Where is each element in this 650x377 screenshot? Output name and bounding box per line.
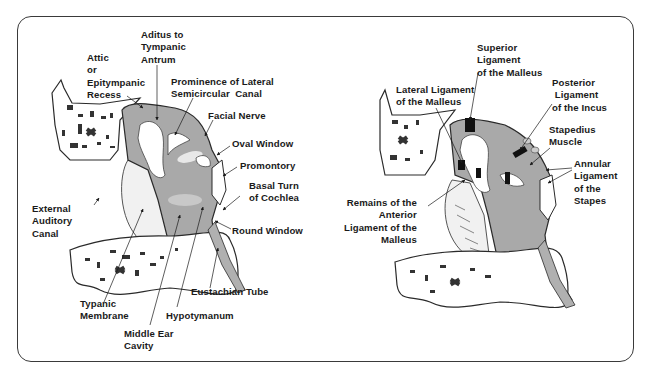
label-posterior-ligament-incus: Posterior Ligament of the Incus bbox=[552, 77, 607, 114]
label-tympanic-membrane: Typanic Membrane bbox=[80, 298, 129, 323]
label-basal-turn-of-cochlea: Basal Turn of Cochlea bbox=[249, 180, 299, 205]
promontory-bone bbox=[212, 160, 226, 205]
label-anterior-ligament-malleus: Remains of the Anterior Ligament of the … bbox=[344, 197, 417, 246]
label-hypotympanum: Hypotymanum bbox=[166, 310, 234, 322]
label-external-auditory-canal: External Auditory Canal bbox=[32, 203, 72, 240]
label-attic-epitympanic-recess: Attic or Epitympanic Recess bbox=[87, 52, 145, 101]
label-promontory: Promontory bbox=[240, 160, 295, 172]
label-aditus-to-tympanic-antrum: Aditus to Tympanic Antrum bbox=[141, 29, 186, 66]
label-stapedius-muscle: Stapedius Muscle bbox=[549, 124, 596, 149]
label-middle-ear-cavity: Middle Ear Cavity bbox=[124, 328, 174, 353]
label-eustachian-tube: Eustachian Tube bbox=[191, 286, 269, 298]
label-superior-ligament-malleus: Superior Ligament of the Malleus bbox=[477, 42, 542, 79]
promontory-bone-right bbox=[540, 175, 556, 220]
label-oval-window: Oval Window bbox=[232, 138, 293, 150]
label-annular-ligament-stapes: Annular Ligament of the Stapes bbox=[574, 158, 617, 207]
superior-ligament bbox=[465, 118, 475, 132]
label-prominence-lateral-canal: Prominence of Lateral Semicircular Canal bbox=[171, 76, 274, 101]
label-round-window: Round Window bbox=[232, 225, 303, 237]
label-facial-nerve: Facial Nerve bbox=[208, 110, 266, 122]
label-lateral-ligament-malleus: Lateral Ligament of the Malleus bbox=[396, 84, 474, 109]
